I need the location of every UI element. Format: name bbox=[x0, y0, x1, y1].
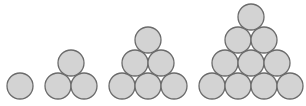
circle bbox=[45, 73, 71, 99]
circle bbox=[109, 73, 135, 99]
circle bbox=[148, 50, 174, 76]
circle bbox=[71, 73, 97, 99]
circle bbox=[7, 73, 33, 99]
circle bbox=[161, 73, 187, 99]
circle-group-6 bbox=[109, 27, 187, 99]
circle-group-10 bbox=[199, 4, 303, 99]
circle-group-3 bbox=[45, 50, 97, 99]
circle bbox=[238, 4, 264, 30]
triangular-numbers-diagram bbox=[0, 0, 306, 106]
circle bbox=[212, 50, 238, 76]
circle bbox=[122, 50, 148, 76]
circle bbox=[238, 50, 264, 76]
circle bbox=[225, 73, 251, 99]
circle bbox=[264, 50, 290, 76]
circle bbox=[277, 73, 303, 99]
circle bbox=[225, 27, 251, 53]
circle bbox=[251, 27, 277, 53]
circle bbox=[251, 73, 277, 99]
circle bbox=[199, 73, 225, 99]
circle bbox=[58, 50, 84, 76]
circle-group-1 bbox=[7, 73, 33, 99]
circle bbox=[135, 73, 161, 99]
circle bbox=[135, 27, 161, 53]
